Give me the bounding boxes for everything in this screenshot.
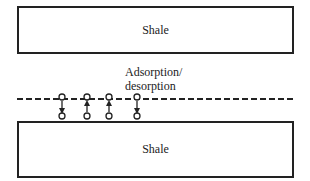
molecule-up-arrow: [84, 94, 90, 119]
molecule-circle-icon: [106, 113, 112, 119]
molecule-down-arrow: [134, 94, 140, 119]
shale-layer-bottom: Shale: [17, 121, 294, 178]
molecule-circle-icon: [134, 94, 140, 100]
molecule-circle-icon: [134, 113, 140, 119]
molecule-group: [59, 94, 140, 119]
molecule-circle-icon: [59, 113, 65, 119]
molecule-up-arrow: [106, 94, 112, 119]
molecule-down-arrow: [59, 94, 65, 119]
molecule-circle-icon: [106, 94, 112, 100]
shale-bottom-label: Shale: [142, 142, 169, 157]
molecule-circle-icon: [84, 94, 90, 100]
molecule-circle-icon: [84, 113, 90, 119]
molecule-circle-icon: [59, 94, 65, 100]
